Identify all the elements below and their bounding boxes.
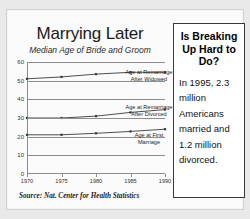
x-axis-tick [27,174,28,177]
legend-item-remarriage-divorced: Age at Remarriage After Divorced [123,104,175,117]
chart-panel: Marrying Later Median Age of Bride and G… [15,12,175,209]
x-axis-tick [62,174,63,177]
x-axis-tick-label: 1985 [124,178,136,184]
data-point-marker [95,115,97,117]
y-axis-tick-label: 60 [17,59,24,65]
x-axis-tick-label: 1990 [159,178,171,184]
y-axis-tick-label: 10 [17,152,24,158]
chart-legend: Age at Remarriage After Widowed Age at R… [123,62,175,177]
x-axis-tick-label: 1975 [55,178,67,184]
y-axis-tick-label: 30 [17,115,24,121]
data-point-marker [95,132,97,134]
data-point-marker [60,134,62,136]
chart-subtitle: Median Age of Bride and Groom [15,45,165,55]
legend-item-first-marriage: Age at First Marriage [123,132,175,145]
x-axis-tick-label: 1980 [90,178,102,184]
x-axis-tick-label: 1970 [21,178,33,184]
data-point-marker [26,134,28,136]
data-point-marker [26,78,28,80]
infographic-card: Marrying Later Median Age of Bride and G… [6,9,244,210]
chart-source: Source: Nat. Center for Health Statistic… [19,192,175,200]
y-axis-tick-label: 20 [17,134,24,140]
x-axis-tick [96,174,97,177]
sidebar-body: In 1995, 2.3 million Americans married a… [179,75,239,168]
y-axis-tick-label: 0 [21,171,24,177]
y-axis-tick-label: 50 [17,78,24,84]
legend-item-remarriage-widowed: Age at Remarriage After Widowed [123,69,175,82]
sidebar-headline: Is Breaking Up Hard to Do? [179,30,239,68]
figure-root: Marrying Later Median Age of Bride and G… [0,0,250,219]
y-axis-tick-label: 40 [17,96,24,102]
sidebar-box: Is Breaking Up Hard to Do? In 1995, 2.3 … [173,23,245,198]
chart-title: Marrying Later [15,24,165,44]
data-point-marker [60,76,62,78]
data-point-marker [95,73,97,75]
